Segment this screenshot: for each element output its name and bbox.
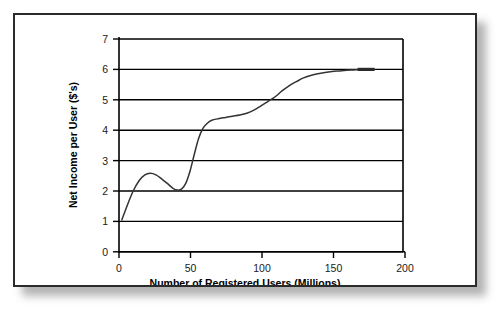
x-axis-title: Number of Registered Users (Millions) [150, 277, 341, 285]
figure-frame: 7 6 5 4 3 2 1 0 0 50 100 150 200 Number [13, 13, 477, 287]
x-tick-label-100: 100 [253, 262, 271, 274]
x-tick-label-0: 0 [116, 262, 122, 274]
y-tick-label-3: 3 [102, 155, 108, 167]
x-tick-label-150: 150 [325, 262, 343, 274]
y-tick-label-4: 4 [102, 124, 108, 136]
chart-figure: 7 6 5 4 3 2 1 0 0 50 100 150 200 Number [0, 0, 503, 322]
y-tick-label-6: 6 [102, 63, 108, 75]
x-tick-label-200: 200 [396, 262, 414, 274]
y-tick-label-7: 7 [102, 33, 108, 45]
line-chart: 7 6 5 4 3 2 1 0 0 50 100 150 200 Number [15, 15, 475, 285]
y-tick-label-5: 5 [102, 94, 108, 106]
x-tick-label-50: 50 [185, 262, 197, 274]
y-tick-label-2: 2 [102, 185, 108, 197]
plot-background [15, 15, 475, 285]
y-tick-label-1: 1 [102, 215, 108, 227]
y-axis-title: Net Income per User ($'s) [67, 82, 79, 208]
y-tick-label-0: 0 [102, 246, 108, 258]
